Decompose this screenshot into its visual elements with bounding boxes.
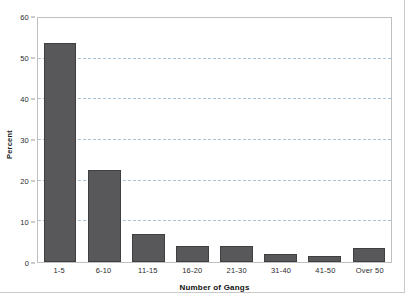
bar-slot [347, 18, 391, 262]
y-axis-tick-label: 10 [20, 218, 29, 227]
bar [44, 43, 77, 262]
x-axis-tick-label: 6-10 [81, 266, 125, 279]
x-axis-title: Number of Gangs [37, 283, 392, 292]
bar [220, 246, 253, 262]
bar [308, 256, 341, 262]
bar-slot [126, 18, 170, 262]
bar-slot [259, 18, 303, 262]
bar-slot [215, 18, 259, 262]
bar [132, 234, 165, 262]
y-axis-tick-label: 20 [20, 177, 29, 186]
y-axis-tick-mark [31, 58, 35, 59]
y-axis-tick-mark [31, 181, 35, 182]
x-axis-tick-label: Over 50 [348, 266, 392, 279]
bar [88, 170, 121, 262]
bar [176, 246, 209, 262]
plot-area [37, 17, 392, 263]
x-axis-tick-label: 31-40 [259, 266, 303, 279]
bar-slot [38, 18, 82, 262]
x-axis-tick-label: 16-20 [170, 266, 214, 279]
y-axis-tick-mark [31, 99, 35, 100]
y-axis-tick-label: 40 [20, 95, 29, 104]
y-axis-tick-label: 60 [20, 13, 29, 22]
bar [353, 248, 386, 262]
y-axis-tick-mark [31, 140, 35, 141]
x-axis-tick-label: 11-15 [126, 266, 170, 279]
bar-slot [170, 18, 214, 262]
bar [264, 254, 297, 262]
x-axis-tick-label: 41-50 [303, 266, 347, 279]
x-axis-tick-label: 1-5 [37, 266, 81, 279]
x-axis: 1-56-1011-1516-2021-3031-4041-50Over 50 [37, 266, 392, 279]
y-axis-tick-label: 50 [20, 54, 29, 63]
y-axis-tick-mark [31, 222, 35, 223]
y-axis-tick-label: 30 [20, 136, 29, 145]
bar-chart-figure: Percent 0102030405060 1-56-1011-1516-202… [0, 0, 406, 303]
y-axis-tick-mark [31, 17, 35, 18]
y-axis: 0102030405060 [0, 17, 35, 263]
bar-slot [303, 18, 347, 262]
bar-series [38, 18, 391, 262]
y-axis-tick-label: 0 [25, 259, 29, 268]
bar-slot [82, 18, 126, 262]
y-axis-tick-mark [31, 263, 35, 264]
x-axis-tick-label: 21-30 [215, 266, 259, 279]
